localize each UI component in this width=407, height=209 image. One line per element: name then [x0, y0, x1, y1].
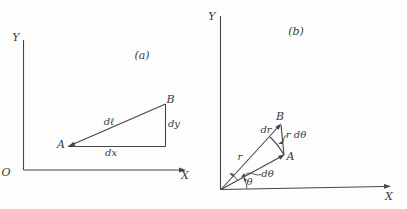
panel-a-point-a-label: A — [57, 139, 65, 150]
panel-b-point-b-label: B — [276, 111, 284, 122]
panel-b-x-axis-label: X — [385, 191, 393, 202]
panel-b-r-label: r — [238, 152, 243, 162]
panel-a-y-axis-label: Y — [12, 32, 19, 43]
diagram-canvas — [0, 0, 407, 209]
panel-b-dr-label: dr — [260, 125, 271, 135]
panel-b-ray-oa-arrowhead-icon — [278, 155, 285, 160]
panel-b-rdtheta-label: r dθ — [286, 130, 306, 140]
panel-a-tag: (a) — [134, 50, 149, 61]
panel-b-y-axis-label: Y — [208, 11, 215, 22]
panel-a-point-b-label: B — [166, 94, 174, 105]
panel-a-x-axis-label: X — [181, 170, 189, 181]
panel-b-x-axis — [221, 187, 385, 190]
panel-b-theta-label: θ — [246, 177, 252, 187]
panel-a-dy-label: dy — [168, 119, 180, 129]
panel-b-rdtheta-arc — [270, 137, 284, 155]
panel-a-dl-arrowhead-icon — [69, 142, 76, 147]
panel-b-x-axis-arrowhead-icon — [384, 184, 391, 189]
panel-a-dx-label: dx — [105, 148, 117, 158]
panel-a-dl-segment — [69, 104, 166, 146]
panel-b-dtheta-label: dθ — [261, 169, 273, 179]
panel-b-point-a-label: A — [287, 151, 295, 162]
panel-a-origin-label: O — [1, 167, 10, 178]
figure-displacement-diagrams: Y O X (a) A B dℓ dx dy Y X (b) B A dr r … — [0, 0, 407, 209]
panel-b-tag: (b) — [288, 26, 304, 37]
panel-a-dl-label: dℓ — [104, 117, 115, 127]
